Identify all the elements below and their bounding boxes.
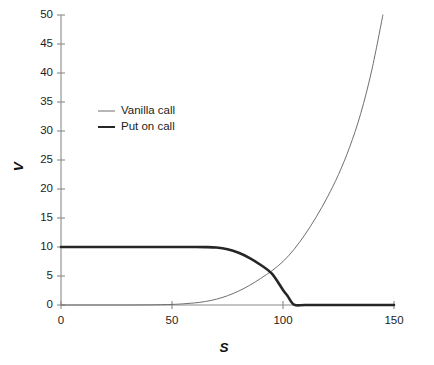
series-line-vanilla-call bbox=[61, 15, 383, 305]
y-tick-label: 15 bbox=[20, 212, 53, 224]
y-tick-label: 5 bbox=[20, 270, 53, 282]
legend-label-vanilla-call: Vanilla call bbox=[121, 105, 175, 117]
legend-line-icon-put-on-call bbox=[98, 122, 115, 132]
y-tick-label: 45 bbox=[20, 38, 53, 50]
y-tick-label: 50 bbox=[20, 9, 53, 21]
y-tick-label: 10 bbox=[20, 241, 53, 253]
x-tick-label: 50 bbox=[166, 315, 179, 327]
x-axis-title: S bbox=[219, 341, 228, 355]
y-tick-label: 40 bbox=[20, 67, 53, 79]
y-tick-label: 35 bbox=[20, 96, 53, 108]
chart-figure: 05101520253035404550 050100150 V S Vanil… bbox=[0, 0, 434, 365]
x-tick-label: 0 bbox=[58, 315, 64, 327]
legend-item-put-on-call: Put on call bbox=[98, 119, 175, 135]
legend-item-vanilla-call: Vanilla call bbox=[98, 103, 175, 119]
plot-canvas bbox=[0, 0, 434, 365]
y-tick-label: 20 bbox=[20, 183, 53, 195]
x-tick-label: 100 bbox=[273, 315, 292, 327]
y-tick-label: 0 bbox=[20, 299, 53, 311]
legend-line-icon-vanilla-call bbox=[98, 106, 115, 116]
series-line-put-on-call bbox=[61, 247, 394, 305]
y-tick-label: 30 bbox=[20, 125, 53, 137]
y-axis-title: V bbox=[12, 162, 26, 171]
x-tick-label: 150 bbox=[384, 315, 403, 327]
legend-label-put-on-call: Put on call bbox=[121, 121, 175, 133]
chart-legend: Vanilla call Put on call bbox=[98, 103, 175, 135]
